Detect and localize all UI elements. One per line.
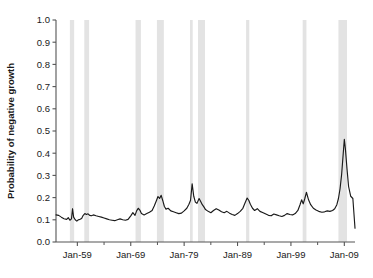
recession-band xyxy=(157,20,164,242)
probability-of-negative-growth-line-chart: 0.00.10.20.30.40.50.60.70.80.91.0 Jan-59… xyxy=(0,0,373,278)
recession-band xyxy=(198,20,205,242)
y-axis-tick-label: 0.2 xyxy=(37,192,50,203)
y-axis-tick-label: 0.8 xyxy=(37,59,50,70)
x-axis-tick-label: Jan-59 xyxy=(63,249,92,260)
recession-band xyxy=(84,20,89,242)
recession-band xyxy=(190,20,193,242)
recession-band xyxy=(246,20,249,242)
recession-band xyxy=(303,20,307,242)
y-axis-title: Probability of negative growth xyxy=(5,63,16,199)
y-axis-tick-label: 0.4 xyxy=(37,148,50,159)
y-axis-tick-label: 0.5 xyxy=(37,125,50,136)
x-axis-tick-label: Jan-89 xyxy=(223,249,252,260)
x-axis-tick-label: Jan-69 xyxy=(116,249,145,260)
y-axis-tick-label: 0.0 xyxy=(37,236,50,247)
y-axis-tick-label: 0.6 xyxy=(37,103,50,114)
y-axis-tick-label: 0.1 xyxy=(37,214,50,225)
recession-band xyxy=(338,20,347,242)
x-axis-tick-label: Jan-09 xyxy=(330,249,359,260)
x-axis-tick-label: Jan-79 xyxy=(170,249,199,260)
y-axis-tick-label: 0.3 xyxy=(37,170,50,181)
y-axis-tick-label: 0.7 xyxy=(37,81,50,92)
x-axis-tick-label: Jan-99 xyxy=(276,249,305,260)
y-axis-tick-label: 0.9 xyxy=(37,37,50,48)
chart-container: 0.00.10.20.30.40.50.60.70.80.91.0 Jan-59… xyxy=(0,0,373,278)
y-axis-tick-label: 1.0 xyxy=(37,14,50,25)
